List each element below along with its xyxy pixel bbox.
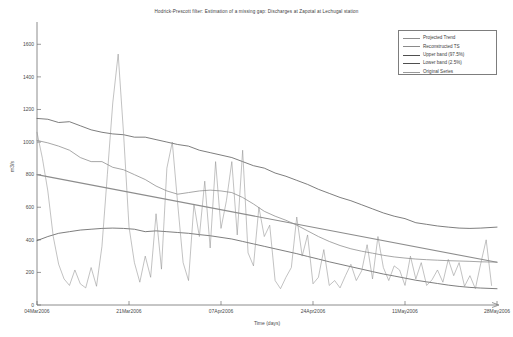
series-lower-band-2-5 [37, 228, 497, 289]
x-tick-label: 07Apr2006 [209, 308, 234, 314]
x-axis-title: Time (days) [254, 320, 281, 326]
series-original-series [37, 54, 492, 289]
legend-swatch-line-icon [403, 63, 420, 64]
legend-item-label: Original Series [423, 70, 453, 75]
series-reconstructed-ts [37, 140, 497, 262]
y-tick-label: 200 [26, 269, 35, 275]
legend-swatch-line-icon [403, 38, 420, 39]
x-tick-label: 04Mar2006 [24, 308, 50, 314]
x-tick-label: 21Mar2006 [116, 308, 142, 314]
x-tick-label: 11May2006 [392, 308, 418, 314]
legend-item: Original Series [403, 68, 453, 77]
legend: Projected TrendReconstructed TSUpper ban… [398, 30, 497, 75]
y-tick-label: 800 [26, 171, 35, 177]
legend-swatch-line-icon [403, 46, 420, 47]
series-lines [37, 54, 497, 289]
series-projected-trend [37, 175, 497, 263]
legend-item-label: Projected Trend [423, 36, 455, 41]
y-tick-label: 600 [26, 204, 35, 210]
y-tick-label: 1000 [23, 139, 34, 145]
y-axis-title: m3/s [9, 161, 15, 172]
legend-item-label: Upper band (97.5%) [423, 53, 464, 58]
legend-swatch-line-icon [403, 55, 420, 56]
series-upper-band-97-5 [37, 118, 497, 228]
x-tick-label: 24Apr2006 [301, 308, 326, 314]
legend-item-label: Reconstructed TS [423, 45, 460, 50]
x-tick-label: 28May2006 [484, 308, 510, 314]
y-tick-label: 0 [31, 302, 34, 308]
legend-item-label: Lower band (2.5%) [423, 61, 462, 66]
y-tick-label: 400 [26, 237, 35, 243]
legend-swatch-line-icon [403, 72, 420, 73]
y-tick-label: 1200 [23, 106, 34, 112]
y-tick-label: 1400 [23, 74, 34, 80]
chart-figure: Hodrick-Prescott filter: Estimation of a… [0, 0, 513, 337]
y-tick-label: 1600 [23, 41, 34, 47]
